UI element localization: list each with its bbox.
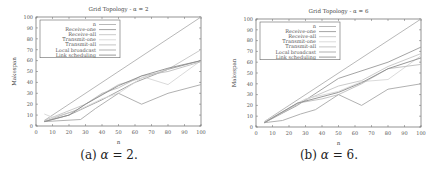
y-tick-label: 60 <box>247 59 253 65</box>
y-tick-label: 60 <box>27 57 33 63</box>
y-axis-label: Makespan <box>231 58 238 87</box>
caption-a-rest: = 2. <box>109 148 138 162</box>
y-tick-label: 50 <box>247 70 253 76</box>
x-tick-label: 10 <box>269 130 275 136</box>
y-tick-label: 90 <box>247 27 253 33</box>
chart-panel-b: Grid Topology - α = 60102030405060708090… <box>220 0 435 177</box>
legend-label: Link scheduling <box>56 52 97 59</box>
y-tick-label: 0 <box>30 123 33 129</box>
x-tick-label: 30 <box>82 129 88 135</box>
y-tick-label: 10 <box>27 112 33 118</box>
y-tick-label: 20 <box>247 102 253 108</box>
x-tick-label: 60 <box>352 130 358 136</box>
x-tick-label: 70 <box>148 129 154 135</box>
y-tick-label: 100 <box>243 16 253 22</box>
y-tick-label: 70 <box>247 48 253 54</box>
x-tick-label: 40 <box>99 129 105 135</box>
caption-b-rest: = 6. <box>329 148 358 162</box>
legend: nReceive-oneReceive-allTransmit-oneTrans… <box>260 22 340 61</box>
x-tick-label: 30 <box>302 130 308 136</box>
y-tick-label: 20 <box>27 101 33 107</box>
x-tick-label: 50 <box>335 130 341 136</box>
x-tick-label: 20 <box>286 130 292 136</box>
y-tick-label: 80 <box>247 37 253 43</box>
chart-title: Grid Topology - α = 6 <box>309 8 369 15</box>
y-tick-label: 100 <box>23 14 33 20</box>
caption-a-symbol: α <box>101 148 109 162</box>
x-axis-label: n <box>117 139 121 145</box>
x-axis-label: n <box>337 140 341 146</box>
chart-panel-a: Grid Topology - α = 20102030405060708090… <box>0 0 218 177</box>
x-tick-label: 60 <box>132 129 138 135</box>
x-tick-label: 70 <box>368 130 374 136</box>
y-tick-label: 30 <box>27 90 33 96</box>
x-tick-label: 40 <box>319 130 325 136</box>
y-tick-label: 30 <box>247 91 253 97</box>
x-tick-label: 90 <box>401 130 407 136</box>
legend: nReceive-oneReceive-allTransmit-oneTrans… <box>40 20 120 59</box>
caption-b-symbol: α <box>321 148 329 162</box>
caption-b: (b) α = 6. <box>220 148 435 162</box>
y-tick-label: 70 <box>27 47 33 53</box>
y-tick-label: 50 <box>27 68 33 74</box>
y-tick-label: 10 <box>247 113 253 119</box>
y-tick-label: 40 <box>27 79 33 85</box>
y-tick-label: 80 <box>27 36 33 42</box>
y-tick-label: 0 <box>250 124 253 130</box>
legend-label: Link scheduling <box>276 54 317 61</box>
series-line-receive-all <box>264 54 421 123</box>
x-tick-label: 10 <box>49 129 55 135</box>
caption-b-prefix: (b) <box>300 148 321 162</box>
chart-title: Grid Topology - α = 2 <box>89 6 149 13</box>
y-tick-label: 40 <box>247 81 253 87</box>
x-tick-label: 20 <box>66 129 72 135</box>
x-tick-label: 0 <box>34 129 37 135</box>
series-line-receive-all <box>44 50 201 121</box>
caption-a: (a) α = 2. <box>0 148 218 162</box>
x-tick-label: 0 <box>254 130 257 136</box>
x-tick-label: 50 <box>115 129 121 135</box>
x-tick-label: 80 <box>165 129 171 135</box>
y-tick-label: 90 <box>27 25 33 31</box>
x-tick-label: 80 <box>385 130 391 136</box>
caption-a-prefix: (a) <box>80 148 100 162</box>
x-tick-label: 100 <box>416 130 426 136</box>
y-axis-label: Makespan <box>11 57 18 86</box>
x-tick-label: 90 <box>181 129 187 135</box>
x-tick-label: 100 <box>196 129 206 135</box>
series-line-transmit-all <box>44 62 201 122</box>
